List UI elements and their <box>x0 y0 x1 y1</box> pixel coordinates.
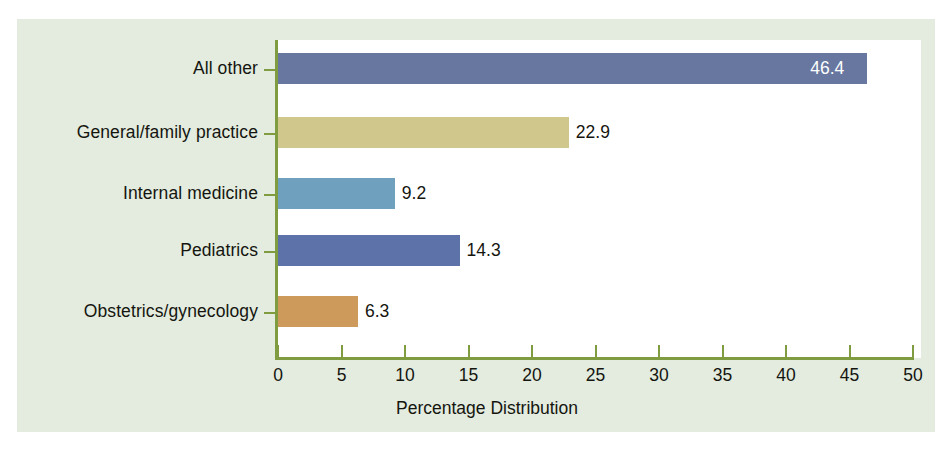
category-tick-4 <box>264 312 276 314</box>
x-tick-30 <box>658 345 660 358</box>
x-tick-label-45: 45 <box>840 365 859 386</box>
x-tick-20 <box>531 345 533 358</box>
category-label-obstetrics-gynecology: Obstetrics/gynecology <box>8 301 258 322</box>
category-tick-3 <box>264 251 276 253</box>
x-tick-25 <box>595 345 597 358</box>
value-label-2: 9.2 <box>402 183 426 204</box>
x-tick-15 <box>468 345 470 358</box>
value-label-4: 6.3 <box>365 301 389 322</box>
x-axis-title: Percentage Distribution <box>0 398 950 419</box>
bar-0 <box>278 53 867 84</box>
bar-2 <box>278 178 395 209</box>
category-label-internal-medicine: Internal medicine <box>8 183 258 204</box>
bar-chart-figure: All other General/family practice Intern… <box>0 0 950 456</box>
x-tick-0 <box>277 345 279 358</box>
x-tick-label-35: 35 <box>713 365 732 386</box>
x-tick-40 <box>785 345 787 358</box>
bar-4 <box>278 296 358 327</box>
category-tick-0 <box>264 69 276 71</box>
x-tick-45 <box>849 345 851 358</box>
bar-1 <box>278 117 569 148</box>
category-tick-2 <box>264 194 276 196</box>
x-tick-label-30: 30 <box>649 365 668 386</box>
x-tick-5 <box>341 345 343 358</box>
value-label-1: 22.9 <box>576 122 610 143</box>
category-label-general-family-practice: General/family practice <box>8 122 258 143</box>
value-label-3: 14.3 <box>467 240 501 261</box>
x-tick-35 <box>722 345 724 358</box>
x-tick-label-15: 15 <box>459 365 478 386</box>
x-tick-label-40: 40 <box>776 365 795 386</box>
category-label-pediatrics: Pediatrics <box>8 240 258 261</box>
x-tick-label-10: 10 <box>395 365 414 386</box>
x-tick-label-0: 0 <box>273 365 283 386</box>
x-tick-label-20: 20 <box>522 365 541 386</box>
bar-3 <box>278 235 460 266</box>
x-tick-50 <box>912 345 914 358</box>
category-tick-1 <box>264 133 276 135</box>
category-axis-labels: All other General/family practice Intern… <box>0 0 258 456</box>
category-label-all-other: All other <box>8 58 258 79</box>
value-label-0: 46.4 <box>810 58 844 79</box>
x-tick-label-50: 50 <box>903 365 922 386</box>
x-tick-10 <box>404 345 406 358</box>
x-tick-label-5: 5 <box>337 365 347 386</box>
x-tick-label-25: 25 <box>586 365 605 386</box>
